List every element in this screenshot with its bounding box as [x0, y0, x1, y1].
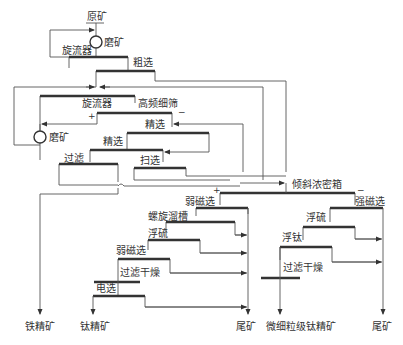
float-titanium-label: 浮钛: [282, 232, 302, 243]
cleaning-1-label: 精选: [145, 118, 165, 130]
filter-dry-1-label: 过滤干燥: [120, 266, 160, 278]
electrostatic-group: 电选: [93, 282, 247, 314]
float-sulfur-1-box: [148, 240, 247, 253]
float-sulfur-2-label: 浮硫: [306, 211, 326, 223]
scavenging-label: 扫选: [140, 154, 160, 166]
float-sulfur-1-label: 浮硫: [148, 227, 168, 239]
hf-screen-label: 高频细筛: [138, 97, 178, 109]
grinding-2-group: 磨矿: [34, 124, 69, 143]
flowsheet-diagram: 原矿 磨矿 旋流器 粗选 旋流器 + 高频细筛 −: [0, 0, 403, 345]
product-fine-titanium-concentrate: 微细粒级钛精矿: [266, 320, 336, 332]
cyclone-1-box: [69, 57, 128, 70]
cyclone-2-plus-sign: +: [88, 111, 96, 121]
float-sulfur-1-group: 浮硫: [148, 227, 247, 253]
line-crossover-1: [118, 184, 124, 186]
filtration-group: 过滤: [59, 152, 118, 185]
products-row: 铁精矿 钛精矿 尾矿 微细粒级钛精矿 尾矿: [25, 320, 392, 332]
thickener-group: 倾斜浓密箱 + −: [213, 178, 365, 205]
product-tailings-1: 尾矿: [236, 320, 256, 332]
float-titanium-group: 浮钛: [280, 232, 382, 262]
grinding-1-label: 磨矿: [104, 36, 124, 48]
electrostatic-box: [93, 296, 247, 307]
weak-mag-2-label: 弱磁选: [116, 244, 146, 256]
grinding-2-label: 磨矿: [49, 131, 69, 143]
thickener-box: [220, 193, 355, 205]
strong-mag-box: [330, 208, 383, 222]
filter-dry-2-group: 过滤干燥: [261, 247, 323, 314]
filter-dry-2-label: 过滤干燥: [283, 261, 323, 273]
roughing-label: 粗选: [133, 56, 153, 68]
float-titanium-box: [280, 247, 382, 262]
cyclone-2-label: 旋流器: [82, 97, 112, 109]
hf-screen-minus-sign: −: [178, 107, 186, 117]
cleaning-2-label: 精选: [103, 135, 123, 147]
strong-mag-label: 强磁选: [355, 195, 385, 207]
spiral-chute-label: 螺旋溜槽: [148, 210, 188, 222]
product-iron-concentrate: 铁精矿: [25, 320, 55, 332]
float-sulfur-2-box: [303, 227, 382, 240]
scavenging-box: [134, 168, 220, 180]
thickener-plus-sign: +: [213, 185, 221, 195]
roughing-box: [96, 71, 200, 81]
spiral-chute-box: [166, 222, 247, 235]
weak-mag-1-group: 弱磁选: [185, 195, 248, 216]
filtration-box: [59, 164, 118, 185]
strong-mag-group: 强磁选: [330, 195, 385, 314]
thickener-label: 倾斜浓密箱: [292, 178, 342, 190]
filtration-label: 过滤: [64, 152, 84, 164]
product-tailings-2: 尾矿: [372, 320, 392, 332]
cyclone-1-label: 旋流器: [62, 44, 92, 56]
weak-mag-1-label: 弱磁选: [185, 195, 215, 207]
float-sulfur-2-group: 浮硫: [303, 211, 382, 240]
grinding-mill-2-icon: [34, 131, 46, 143]
product-titanium-concentrate: 钛精矿: [80, 320, 110, 332]
scavenging-group: 扫选: [134, 154, 230, 180]
iron-conc-top-line: [40, 188, 118, 194]
electrostatic-label: 电选: [96, 282, 116, 294]
raw-ore-label: 原矿: [87, 10, 107, 22]
thickener-minus-sign: −: [357, 185, 365, 195]
